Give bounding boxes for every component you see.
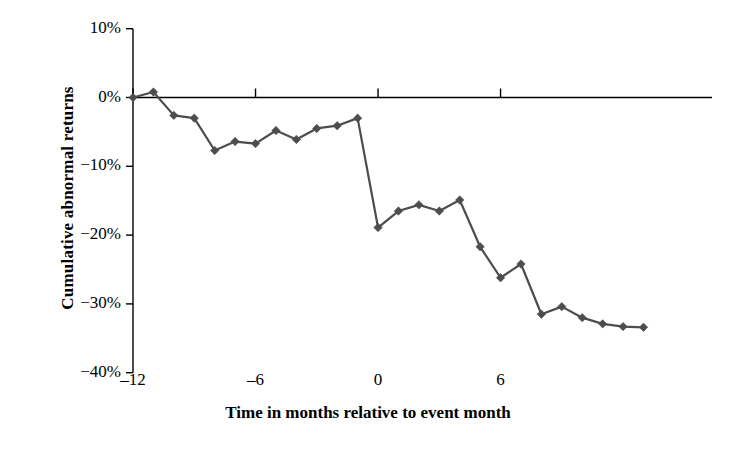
data-point-marker xyxy=(619,322,627,330)
data-point-marker xyxy=(639,323,647,331)
data-point-marker xyxy=(333,122,341,130)
data-point-marker xyxy=(598,320,606,328)
data-series-group xyxy=(129,88,648,332)
x-tick-label-3: 6 xyxy=(471,370,531,390)
x-tick-label-1: ‒6 xyxy=(226,370,286,390)
data-point-marker xyxy=(353,114,361,122)
series-line-0 xyxy=(133,92,644,327)
data-point-marker xyxy=(578,313,586,321)
y-tick-label-4: −30% xyxy=(49,293,121,313)
tick-marks-group xyxy=(126,29,501,373)
data-point-marker xyxy=(231,137,239,145)
data-point-marker xyxy=(537,310,545,318)
data-point-marker xyxy=(313,124,321,132)
data-point-marker xyxy=(415,201,423,209)
y-tick-label-1: 0% xyxy=(49,87,121,107)
data-point-marker xyxy=(456,196,464,204)
chart-figure: Cumulative abnormal returns Time in mont… xyxy=(0,0,734,451)
axes-group xyxy=(133,29,712,373)
y-tick-label-3: −20% xyxy=(49,224,121,244)
x-axis-title: Time in months relative to event month xyxy=(133,403,603,423)
data-point-marker xyxy=(435,207,443,215)
y-axis-title: Cumulative abnormal returns xyxy=(58,68,78,328)
data-point-marker xyxy=(129,93,137,101)
y-tick-label-0: 10% xyxy=(49,18,121,38)
y-tick-label-2: −10% xyxy=(49,155,121,175)
data-point-marker xyxy=(558,302,566,310)
data-point-marker xyxy=(292,135,300,143)
x-tick-label-2: 0 xyxy=(348,370,408,390)
x-tick-label-0: ‒12 xyxy=(103,370,163,390)
